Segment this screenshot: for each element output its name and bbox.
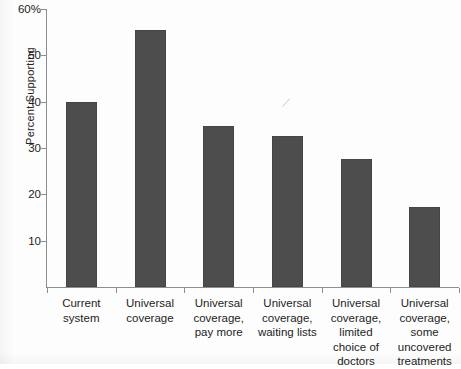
y-tick-label: 20 [5,188,41,200]
x-tick-label-line: Universal [322,296,391,311]
x-tick-mark [184,288,185,293]
x-tick-mark [47,288,48,293]
pencil-stroke-artifact [281,97,292,108]
page-bottom-artifact [4,352,100,359]
x-tick-label-line: system [47,311,116,326]
x-tick-label-line: Universal [390,296,459,311]
x-tick-label: Currentsystem [47,296,116,325]
x-tick-mark [253,288,254,293]
x-tick-mark [116,288,117,293]
x-tick-label-line: Current [47,296,116,311]
y-tick-mark [41,241,46,242]
x-tick-label-line: Universal [116,296,185,311]
bar [135,30,166,287]
x-tick-label: Universalcoverage,waiting lists [253,296,322,340]
x-tick-mark [390,288,391,293]
y-tick-label: 50 [5,49,41,61]
x-tick-label-line: coverage, [322,311,391,326]
y-tick-mark [41,102,46,103]
x-tick-label-line: waiting lists [253,325,322,340]
x-tick-label-line: some [390,325,459,340]
bar [341,159,372,287]
y-tick-label: 60% [5,3,41,15]
y-tick-mark [41,55,46,56]
x-tick-label-line: treatments [390,354,459,369]
x-tick-label-line: uncovered [390,340,459,355]
x-tick-label-line: coverage, [184,311,253,326]
plot-area [47,9,459,287]
x-tick-label-line: choice of [322,340,391,355]
x-tick-mark [459,288,460,293]
y-tick-label: 40 [5,96,41,108]
bar [66,102,97,287]
x-tick-label: Universalcoverage,someuncoveredtreatment… [390,296,459,369]
bar [203,126,234,287]
x-tick-label: Universalcoverage,pay more [184,296,253,340]
x-tick-label-line: limited [322,325,391,340]
y-axis-tick-labels: 102030405060% [0,0,41,364]
x-tick-label-line: coverage, [253,311,322,326]
bar [409,207,440,287]
x-tick-label: Universalcoverage,limitedchoice ofdoctor… [322,296,391,369]
x-tick-label-line: doctors [322,354,391,369]
y-tick-mark [41,148,46,149]
x-tick-mark [322,288,323,293]
x-tick-label-line: coverage [116,311,185,326]
y-tick-mark [41,9,46,10]
y-tick-mark [41,194,46,195]
bar [272,136,303,288]
x-tick-label-line: Universal [184,296,253,311]
x-tick-label-line: Universal [253,296,322,311]
y-tick-label: 30 [5,142,41,154]
y-tick-label: 10 [5,235,41,247]
x-tick-label: Universalcoverage [116,296,185,325]
x-tick-label-line: pay more [184,325,253,340]
x-tick-label-line: coverage, [390,311,459,326]
